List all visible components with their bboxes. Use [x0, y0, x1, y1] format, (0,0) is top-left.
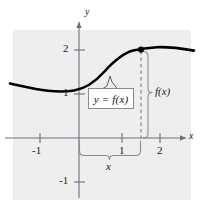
x-tick-label-1: 1	[119, 145, 125, 156]
x-tick-label-neg1: -1	[32, 145, 41, 156]
x-span-brace-label: x	[106, 161, 111, 172]
y-axis-arrowhead	[76, 22, 81, 28]
plot-panel	[13, 30, 191, 200]
y-axis-label: y	[85, 7, 89, 17]
x-tick-label-2: 2	[157, 145, 163, 156]
y-tick-label-2: 2	[63, 43, 69, 54]
f-of-x-brace-label: f(x)	[155, 86, 170, 97]
marked-point	[138, 47, 144, 53]
function-callout-box: y = f(x)	[88, 88, 134, 109]
y-tick-label-neg1: -1	[59, 175, 68, 186]
function-graph-figure: y x -1 1 2 2 1 -1 f(x) x y = f(x)	[0, 0, 204, 212]
x-axis-label: x	[189, 131, 193, 141]
y-tick-label-1: 1	[63, 87, 69, 98]
